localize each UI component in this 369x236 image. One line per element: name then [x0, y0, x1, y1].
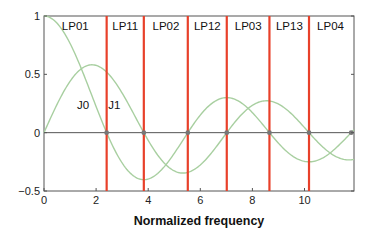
x-axis-label: Normalized frequency: [134, 214, 265, 228]
plot-frame: [44, 16, 354, 191]
mode-labels: LP01LP11LP02LP12LP03LP13LP04: [62, 20, 345, 32]
zero-marker: [104, 130, 109, 135]
zero-marker: [224, 130, 229, 135]
y-tick-label: 1: [34, 10, 40, 22]
mode-label-lp03: LP03: [235, 20, 262, 32]
mode-label-lp12: LP12: [194, 20, 221, 32]
zero-marker: [307, 130, 312, 135]
bessel-curves: [44, 16, 354, 180]
y-axis: −0.500.51: [18, 10, 354, 197]
y-tick-label: 0: [34, 127, 40, 139]
zero-marker: [267, 130, 272, 135]
plot-area: LP01LP11LP02LP12LP03LP13LP04 J0J1: [44, 16, 354, 191]
y-tick-label: 0.5: [25, 68, 40, 80]
mode-label-lp11: LP11: [112, 20, 138, 32]
x-tick-label: 0: [41, 194, 47, 206]
bessel-mode-chart: LP01LP11LP02LP12LP03LP13LP04 J0J1 024681…: [0, 0, 369, 236]
x-tick-label: 6: [197, 194, 203, 206]
mode-label-lp02: LP02: [152, 20, 179, 32]
mode-label-lp01: LP01: [62, 20, 89, 32]
curve-label-j1: J1: [108, 99, 120, 111]
curve-labels: J0J1: [77, 99, 120, 111]
y-tick-label: −0.5: [18, 185, 40, 197]
zero-marker: [141, 130, 146, 135]
x-tick-label: 4: [145, 194, 151, 206]
mode-label-lp13: LP13: [276, 20, 303, 32]
x-tick-label: 2: [93, 194, 99, 206]
zero-marker: [185, 130, 190, 135]
x-tick-label: 10: [298, 194, 310, 206]
curve-label-j0: J0: [77, 99, 89, 111]
curve-j0: [44, 16, 354, 180]
curve-j1: [44, 65, 354, 173]
x-tick-label: 8: [249, 194, 255, 206]
mode-label-lp04: LP04: [317, 20, 344, 32]
